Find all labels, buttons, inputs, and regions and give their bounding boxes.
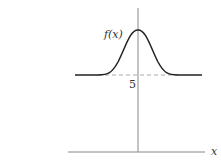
curve-label: f(x) [103, 28, 123, 41]
plot: f(x) 5 x [0, 0, 221, 161]
asymptote-label: 5 [129, 78, 136, 91]
x-axis-label: x [211, 145, 218, 158]
